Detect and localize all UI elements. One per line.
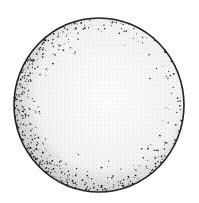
- stippled-sphere-illustration: [0, 0, 199, 203]
- sphere-body: [14, 18, 184, 192]
- illustration-canvas: [0, 0, 199, 203]
